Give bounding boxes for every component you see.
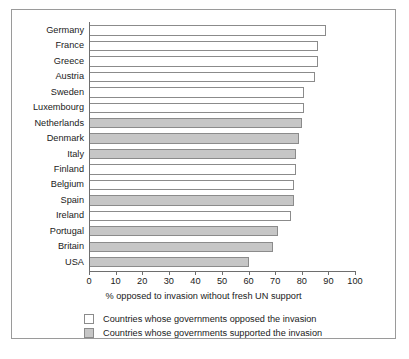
bar-luxembourg: [89, 103, 304, 113]
bar-row: Luxembourg: [89, 100, 355, 115]
bar-france: [89, 41, 318, 51]
bar-row: Germany: [89, 23, 355, 38]
bar-spain: [89, 195, 294, 205]
x-tick-label: 90: [323, 276, 333, 286]
bar-row: Belgium: [89, 177, 355, 192]
y-axis-label: Netherlands: [34, 116, 84, 131]
legend-item-supported: Countries whose governments supported th…: [84, 326, 334, 340]
bar-row: Finland: [89, 162, 355, 177]
y-axis-label: Italy: [67, 147, 84, 162]
x-tick: [302, 271, 303, 275]
x-tick: [116, 271, 117, 275]
legend-label-opposed: Countries whose governments opposed the …: [103, 314, 316, 324]
y-axis-label: USA: [65, 255, 84, 270]
x-tick: [89, 271, 90, 275]
x-tick-label: 80: [297, 276, 307, 286]
legend-item-opposed: Countries whose governments opposed the …: [84, 312, 334, 326]
y-axis-label: Sweden: [51, 85, 84, 100]
bar-britain: [89, 242, 273, 252]
x-tick-label: 50: [217, 276, 227, 286]
bar-greece: [89, 56, 318, 66]
x-tick: [275, 271, 276, 275]
bar-row: Spain: [89, 193, 355, 208]
x-tick-label: 30: [164, 276, 174, 286]
chart-legend: Countries whose governments opposed the …: [84, 312, 334, 340]
x-tick-label: 10: [110, 276, 120, 286]
y-axis-label: Finland: [54, 162, 84, 177]
y-axis-label: Greece: [54, 54, 84, 69]
bar-row: Portugal: [89, 224, 355, 239]
bar-row: Denmark: [89, 131, 355, 146]
y-axis-label: Denmark: [47, 131, 84, 146]
bar-row: Greece: [89, 54, 355, 69]
y-axis-label: Spain: [61, 193, 85, 208]
x-tick: [169, 271, 170, 275]
y-axis-line: [89, 22, 90, 272]
bar-germany: [89, 25, 326, 35]
x-tick: [355, 271, 356, 275]
x-tick: [328, 271, 329, 275]
x-tick-label: 0: [86, 276, 91, 286]
bar-row: Italy: [89, 147, 355, 162]
x-tick: [195, 271, 196, 275]
x-axis-title: % opposed to invasion without fresh UN s…: [12, 291, 395, 301]
x-tick-label: 20: [137, 276, 147, 286]
x-tick-label: 100: [347, 276, 362, 286]
y-axis-label: Belgium: [51, 177, 84, 192]
bar-row: USA: [89, 255, 355, 270]
legend-swatch-opposed: [84, 314, 94, 324]
bar-series: GermanyFranceGreeceAustriaSwedenLuxembou…: [89, 23, 355, 270]
bar-row: Britain: [89, 239, 355, 254]
bar-row: Netherlands: [89, 116, 355, 131]
bar-row: Sweden: [89, 85, 355, 100]
bar-usa: [89, 257, 249, 267]
legend-label-supported: Countries whose governments supported th…: [103, 328, 322, 338]
x-tick-label: 60: [243, 276, 253, 286]
y-axis-label: France: [55, 38, 84, 53]
x-tick: [222, 271, 223, 275]
bar-belgium: [89, 180, 294, 190]
bar-row: France: [89, 38, 355, 53]
plot-area: GermanyFranceGreeceAustriaSwedenLuxembou…: [89, 23, 355, 272]
y-axis-label: Britain: [58, 239, 84, 254]
chart-figure: GermanyFranceGreeceAustriaSwedenLuxembou…: [11, 9, 396, 339]
bar-netherlands: [89, 118, 302, 128]
x-tick-label: 40: [190, 276, 200, 286]
y-axis-label: Germany: [46, 23, 84, 38]
bar-sweden: [89, 87, 304, 97]
bar-finland: [89, 164, 296, 174]
bar-austria: [89, 72, 315, 82]
x-tick: [142, 271, 143, 275]
legend-swatch-supported: [84, 328, 94, 338]
y-axis-label: Austria: [55, 69, 84, 84]
bar-ireland: [89, 211, 291, 221]
bar-denmark: [89, 133, 299, 143]
y-axis-label: Luxembourg: [33, 100, 84, 115]
x-tick-label: 70: [270, 276, 280, 286]
bar-row: Ireland: [89, 208, 355, 223]
y-axis-label: Ireland: [56, 208, 84, 223]
bar-row: Austria: [89, 69, 355, 84]
bar-italy: [89, 149, 296, 159]
bar-portugal: [89, 226, 278, 236]
y-axis-label: Portugal: [50, 224, 84, 239]
x-tick: [249, 271, 250, 275]
